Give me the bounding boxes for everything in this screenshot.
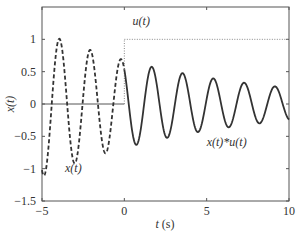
y-tick-label: 0: [30, 97, 36, 111]
chart: −50510−1.5−1−0.500.51u(t)x(t)x(t)*u(t) t…: [0, 0, 306, 240]
y-axis-label: x(t): [3, 96, 17, 114]
series-lines: [42, 39, 289, 176]
y-tick-label: 1: [30, 32, 36, 46]
x-tick-label: −5: [36, 204, 49, 218]
x-tick-label: 0: [121, 204, 127, 218]
series-x-times-u: [124, 67, 289, 145]
y-tick-label: −1: [23, 162, 36, 176]
annotation-1: x(t): [64, 161, 82, 175]
x-axis-label: t (s): [155, 217, 174, 231]
x-tick-label: 5: [204, 204, 210, 218]
annotation-0: u(t): [133, 14, 150, 28]
x-tick-label: 10: [283, 204, 295, 218]
y-tick-label: 0.5: [21, 65, 36, 79]
series-x-dashed: [42, 39, 124, 176]
annotation-2: x(t)*u(t): [206, 135, 247, 149]
y-tick-label: −0.5: [14, 129, 36, 143]
y-tick-label: −1.5: [14, 194, 36, 208]
